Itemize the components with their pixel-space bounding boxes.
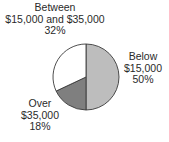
- label-between-line1: Between: [0, 2, 110, 14]
- label-between: Between $15,000 and $35,000 32%: [0, 2, 110, 37]
- label-below: Below $15,000 50%: [117, 51, 169, 86]
- label-over-line1: Over: [15, 98, 65, 110]
- label-below-pct: 50%: [117, 74, 169, 86]
- label-between-pct: 32%: [0, 25, 110, 37]
- label-below-line1: Below: [117, 51, 169, 63]
- pie-slice-below-15-000: [86, 44, 119, 110]
- label-over: Over $35,000 18%: [15, 98, 65, 133]
- label-over-pct: 18%: [15, 121, 65, 133]
